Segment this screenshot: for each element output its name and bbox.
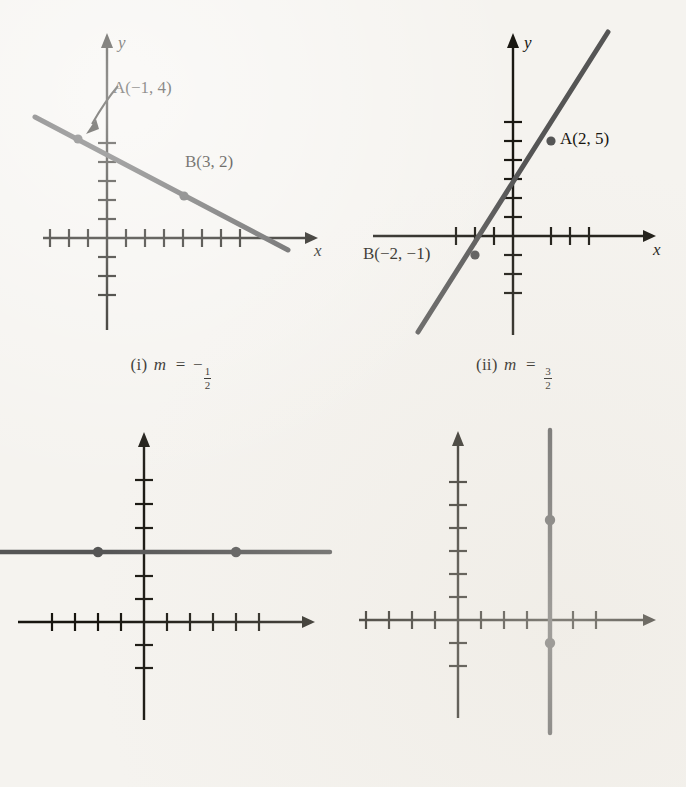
coordinate-plane-iv xyxy=(343,400,686,787)
x-axis-label-i: x xyxy=(314,241,322,261)
line-i xyxy=(35,117,288,250)
point-label-B-i: B(3, 2) xyxy=(185,152,233,172)
point-A-iv xyxy=(545,638,555,648)
y-axis-label-i: y xyxy=(118,33,126,53)
caption-roman-i: (i) xyxy=(131,355,148,374)
coordinate-plane-i xyxy=(0,0,343,400)
caption-fraction-ii: 32 xyxy=(543,366,553,391)
x-axis-label-ii: x xyxy=(653,240,661,260)
point-B-i xyxy=(179,191,188,200)
point-label-A-i: A(−1, 4) xyxy=(113,78,172,98)
point-A-ii xyxy=(546,136,555,145)
fraction-numerator-ii: 3 xyxy=(544,366,552,379)
caption-variable-ii: m xyxy=(502,355,518,374)
caption-ii: (ii) m = 32 xyxy=(343,355,686,391)
point-A-iii xyxy=(231,547,241,557)
coordinate-plane-ii xyxy=(343,0,686,400)
panel-ii: x y A(2, 5) B(−2, −1) (ii) m = 32 xyxy=(343,0,686,400)
caption-i: (i) m = −12 xyxy=(0,355,343,391)
point-label-A-ii: A(2, 5) xyxy=(560,129,609,149)
caption-variable-i: m xyxy=(152,355,168,374)
fraction-denominator-i: 2 xyxy=(204,379,212,391)
fraction-numerator-i: 1 xyxy=(204,366,212,379)
point-label-B-ii: B(−2, −1) xyxy=(363,244,430,264)
x-axis-iv xyxy=(359,614,656,626)
coordinate-plane-iii xyxy=(0,400,343,787)
caption-sign-i: − xyxy=(193,355,203,374)
panel-iv: x y B(4, 4) A (4, −1) (iv) m undefined xyxy=(343,400,686,787)
point-B-iii xyxy=(93,547,103,557)
caption-equals-ii: = xyxy=(523,355,539,374)
point-B-ii xyxy=(470,250,479,259)
caption-fraction-i: 12 xyxy=(203,366,213,391)
x-axis-ii xyxy=(373,230,656,242)
fraction-denominator-ii: 2 xyxy=(544,379,552,391)
caption-roman-ii: (ii) xyxy=(476,355,498,374)
point-A-i xyxy=(73,134,82,143)
panel-iii: x y B(−2, 3) A (4, 3) (iii) m = 0 xyxy=(0,400,343,787)
point-B-iv xyxy=(545,515,555,525)
y-axis-label-ii: y xyxy=(524,33,532,53)
caption-equals-i: = xyxy=(173,355,189,374)
panel-i: x y A(−1, 4) B(3, 2) (i) m = −12 xyxy=(0,0,343,400)
